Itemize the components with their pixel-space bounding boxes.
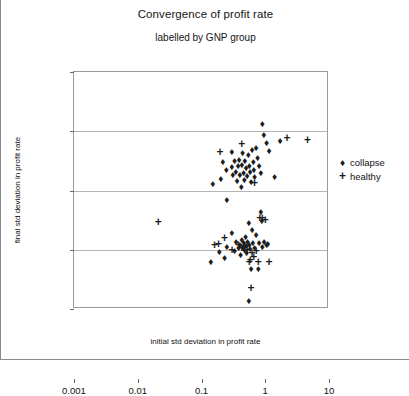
data-point-healthy: + bbox=[251, 177, 258, 189]
data-point-healthy: + bbox=[216, 146, 223, 158]
x-tick-label: 0.001 bbox=[62, 385, 86, 396]
x-axis-label: initial std deviation in profit rate bbox=[1, 337, 409, 346]
x-tick-mark bbox=[202, 379, 203, 383]
legend-label: collapse bbox=[350, 157, 385, 168]
data-point-healthy: + bbox=[238, 138, 245, 150]
data-point-healthy: + bbox=[304, 134, 311, 146]
data-point-healthy: + bbox=[155, 216, 162, 228]
data-point-collapse: ♦ bbox=[224, 165, 229, 175]
data-point-healthy: + bbox=[266, 256, 273, 268]
plot-area: 0.0010.010.1110 0.0010.010.1110 ♦♦♦♦♦♦♦♦… bbox=[73, 71, 328, 308]
data-point-healthy: + bbox=[284, 132, 291, 144]
legend-item-collapse[interactable]: ♦collapse bbox=[337, 155, 385, 169]
y-tick-mark bbox=[70, 309, 74, 310]
data-point-collapse: ♦ bbox=[277, 136, 282, 146]
gridline bbox=[74, 250, 327, 251]
y-tick-mark bbox=[70, 131, 74, 132]
y-tick-mark bbox=[70, 191, 74, 192]
plus-marker-icon: + bbox=[337, 169, 348, 183]
x-tick-label: 10 bbox=[324, 385, 335, 396]
legend-item-healthy[interactable]: +healthy bbox=[337, 169, 385, 183]
page-title: Convergence of profit rate bbox=[1, 8, 409, 20]
data-point-healthy: + bbox=[262, 214, 269, 226]
data-point-collapse: ♦ bbox=[265, 239, 270, 249]
data-point-healthy: + bbox=[221, 232, 228, 244]
diamond-marker-icon: ♦ bbox=[337, 157, 348, 168]
y-tick-mark bbox=[70, 250, 74, 251]
data-point-collapse: ♦ bbox=[267, 146, 272, 156]
data-point-healthy: + bbox=[248, 282, 255, 294]
x-tick-mark bbox=[265, 379, 266, 383]
data-point-collapse: ♦ bbox=[218, 174, 223, 184]
chart-subtitle: labelled by GNP group bbox=[1, 32, 409, 43]
data-point-collapse: ♦ bbox=[224, 195, 229, 205]
y-axis-label: final std deviation in profit rate bbox=[13, 137, 22, 243]
gridline bbox=[74, 191, 327, 192]
x-tick-mark bbox=[74, 379, 75, 383]
x-tick-mark bbox=[138, 379, 139, 383]
x-tick-label: 1 bbox=[263, 385, 268, 396]
legend-label: healthy bbox=[350, 171, 381, 182]
data-point-collapse: ♦ bbox=[210, 179, 215, 189]
y-tick-mark bbox=[70, 72, 74, 73]
data-point-collapse: ♦ bbox=[272, 172, 277, 182]
x-tick-mark bbox=[329, 379, 330, 383]
data-point-collapse: ♦ bbox=[246, 296, 251, 306]
x-tick-label: 0.1 bbox=[195, 385, 208, 396]
data-point-healthy: + bbox=[255, 256, 262, 268]
data-point-collapse: ♦ bbox=[258, 168, 263, 178]
x-tick-label: 0.01 bbox=[129, 385, 148, 396]
data-point-collapse: ♦ bbox=[208, 257, 213, 267]
legend: ♦collapse+healthy bbox=[337, 155, 385, 183]
data-point-collapse: ♦ bbox=[222, 253, 227, 263]
